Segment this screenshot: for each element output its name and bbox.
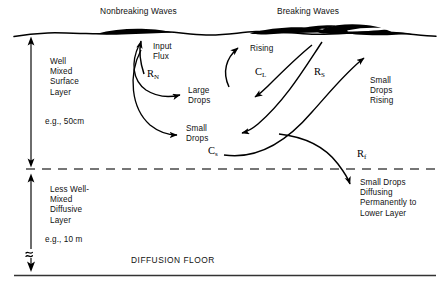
node-large-drops: Large Drops [188, 86, 210, 106]
flux-arrow-cl-large-drops-rising [226, 48, 238, 87]
lower-layer-depth-arrow [27, 174, 35, 273]
symbol-cs: Cs [208, 145, 218, 158]
label-small-drops-rising: Small Drops Rising [370, 76, 393, 107]
symbol-rn: RN [147, 68, 159, 81]
lower-layer-name: Less Well- Mixed Diffusive Layer [50, 185, 89, 226]
node-small-drops: Small Drops [186, 124, 208, 144]
symbol-cs-sub: s [215, 150, 218, 158]
flux-arrow-rf-diffusing-down [279, 134, 350, 184]
symbol-cs-base: C [208, 145, 215, 156]
symbol-rs-base: R [314, 66, 321, 77]
upper-layer-depth-arrow [28, 37, 35, 168]
symbol-cl: CL [255, 66, 266, 79]
label-small-drops-diffusing: Small Drops Diffusing Permanently to Low… [360, 178, 416, 219]
nonbreaking-wave-crest [96, 29, 172, 35]
symbol-rn-base: R [147, 68, 154, 79]
symbol-rf: Rf [357, 148, 366, 161]
breaking-wave-crests [250, 24, 412, 35]
label-rising: Rising [250, 44, 273, 54]
symbol-rn-sub: N [154, 73, 159, 81]
symbol-cl-sub: L [262, 71, 266, 79]
upper-layer-thickness: e.g., 50cm [45, 117, 84, 127]
symbol-cl-base: C [255, 66, 262, 77]
diagram-canvas: Nonbreaking Waves Breaking Waves Well Mi… [0, 0, 448, 288]
flux-arrow-rn-to-small-drops [133, 50, 177, 135]
flux-arrow-rs-to-small-drops [242, 42, 322, 133]
lower-layer-thickness: e.g., 10 m [45, 235, 82, 245]
flux-arrow-cs-small-drops-rising [224, 58, 364, 156]
flux-arrow-input-flux-to-surface [140, 41, 144, 74]
scale-break-symbol-icon [26, 252, 32, 256]
header-nonbreaking-waves: Nonbreaking Waves [100, 6, 177, 16]
symbol-rf-base: R [357, 148, 364, 159]
diffusion-floor-label: DIFFUSION FLOOR [131, 255, 215, 265]
symbol-rf-sub: f [364, 153, 366, 161]
symbol-rs-sub: S [321, 71, 325, 79]
symbol-rs: RS [314, 66, 325, 79]
header-breaking-waves: Breaking Waves [277, 6, 339, 16]
label-input-flux: Input Flux [153, 42, 172, 62]
upper-layer-name: Well Mixed Surface Layer [50, 57, 79, 98]
